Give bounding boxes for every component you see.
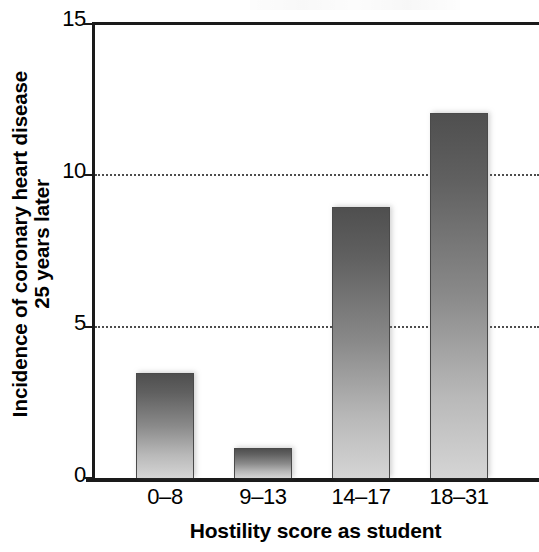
scan-artifact	[250, 0, 460, 10]
y-tick-mark-0	[83, 477, 92, 479]
y-tick-label-15: 15	[38, 6, 86, 32]
bar-1	[234, 448, 292, 478]
bar-2	[332, 207, 390, 478]
y-tick-label-5: 5	[38, 310, 86, 336]
y-tick-mark-15	[83, 23, 92, 25]
x-tick-label-1: 9–13	[209, 484, 317, 510]
y-axis-line	[92, 22, 95, 478]
x-axis-tick-labels: 0–8 9–13 14–17 18–31	[92, 484, 539, 514]
x-axis-title: Hostility score as student	[92, 519, 539, 543]
y-tick-mark-10	[83, 174, 92, 176]
plot-area	[92, 22, 539, 478]
y-axis-tick-labels: 15 10 5 0	[30, 0, 86, 552]
y-axis-title-line-1: Incidence of coronary heart disease	[9, 71, 31, 417]
bar-chart-figure: Incidence of coronary heart disease 25 y…	[0, 0, 539, 552]
y-tick-label-10: 10	[38, 158, 86, 184]
bar-3	[430, 113, 488, 478]
bar-0	[136, 373, 194, 478]
x-tick-label-0: 0–8	[111, 484, 219, 510]
x-tick-label-2: 14–17	[307, 484, 415, 510]
plot-frame-top-line	[92, 22, 539, 25]
y-tick-mark-5	[83, 326, 92, 328]
x-tick-label-3: 18–31	[405, 484, 513, 510]
x-axis-line	[86, 478, 539, 482]
y-tick-label-0: 0	[38, 462, 86, 488]
